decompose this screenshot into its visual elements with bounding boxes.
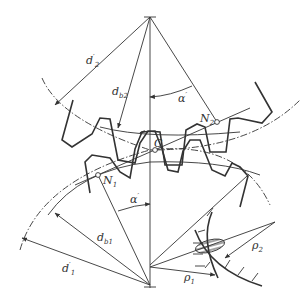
label-n1: N1 — [103, 175, 117, 189]
diagram-canvas — [0, 0, 300, 301]
rho2-arrow — [225, 222, 275, 258]
label-db1: db1 — [97, 232, 113, 246]
label-alpha-bottom: α′ — [130, 193, 139, 205]
point-n2 — [215, 120, 220, 125]
upper-base-circle — [100, 127, 240, 135]
upper-pitch-circle — [42, 78, 300, 150]
label-db2: db2 — [112, 86, 128, 100]
label-d2-pitch: d′2 — [86, 54, 99, 69]
gear-meshing-diagram: d′2 db2 α′ N2 C N1 α′ db1 d′1 ρ2 ρ1 — [0, 0, 300, 301]
db2-base-radius — [118, 17, 150, 128]
label-alpha-top: α′ — [178, 92, 187, 104]
point-n1 — [96, 173, 101, 178]
o2-n2-line — [150, 17, 217, 122]
label-rho1: ρ1 — [184, 272, 195, 286]
label-rho2: ρ2 — [252, 240, 263, 254]
label-c: C — [154, 138, 162, 149]
label-d1-pitch: d′1 — [62, 262, 75, 277]
d2-pitch-radius — [55, 17, 150, 105]
label-n2: N2 — [200, 113, 214, 127]
lower-gear-teeth — [85, 131, 248, 207]
